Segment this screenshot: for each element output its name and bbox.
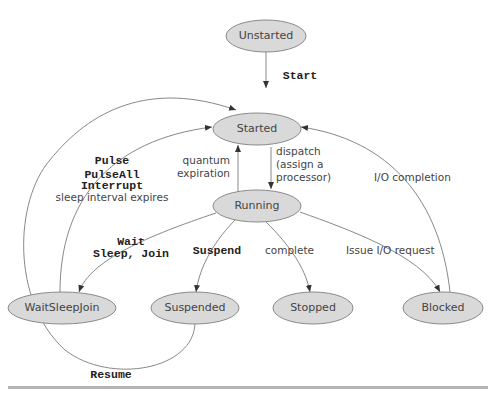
svg-text:Stopped: Stopped [290, 301, 336, 314]
bottom-rule [8, 386, 488, 389]
state-waitsleepjoin: WaitSleepJoin [8, 292, 116, 324]
label-pulse: Pulse [95, 154, 130, 167]
state-running: Running [213, 190, 301, 222]
label-dispatch-2: (assign a [276, 158, 323, 170]
label-dispatch-3: processor) [276, 171, 331, 183]
label-resume: Resume [90, 368, 132, 381]
edge-resume [24, 98, 236, 369]
state-suspended: Suspended [151, 292, 239, 324]
svg-text:Started: Started [237, 122, 278, 135]
label-issue-io: Issue I/O request [346, 244, 435, 256]
svg-text:Unstarted: Unstarted [239, 29, 293, 42]
svg-text:Suspended: Suspended [164, 301, 225, 314]
label-sleep-join: Sleep, Join [93, 247, 169, 260]
edge-pulse [60, 127, 212, 292]
edge-io-completion [301, 127, 450, 292]
label-quantum-2: expiration [177, 167, 230, 179]
svg-text:Running: Running [234, 199, 279, 212]
label-start: Start [283, 69, 318, 82]
svg-text:Blocked: Blocked [421, 301, 464, 314]
svg-text:WaitSleepJoin: WaitSleepJoin [25, 301, 100, 314]
label-suspend: Suspend [193, 244, 241, 257]
state-diagram: Unstarted Started Running WaitSleepJoin … [0, 0, 494, 402]
state-stopped: Stopped [273, 292, 353, 324]
label-io-completion: I/O completion [374, 171, 451, 183]
label-sleep-expires: sleep interval expires [56, 191, 169, 203]
label-complete: complete [265, 244, 314, 256]
label-quantum-1: quantum [183, 154, 230, 166]
label-dispatch-1: dispatch [276, 145, 321, 157]
state-blocked: Blocked [403, 292, 483, 324]
state-unstarted: Unstarted [226, 20, 306, 52]
state-started: Started [213, 113, 301, 145]
